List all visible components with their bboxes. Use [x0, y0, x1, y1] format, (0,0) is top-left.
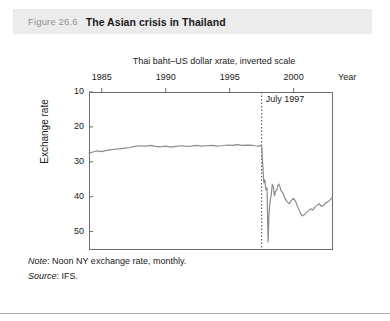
figure-header-content: Figure 26.6 The Asian crisis in Thailand — [28, 9, 226, 34]
note-label: Note — [28, 256, 47, 266]
figure-number: Figure 26.6 — [28, 16, 78, 27]
footnote-source: Source: IFS. — [28, 269, 358, 284]
figure-title: The Asian crisis in Thailand — [86, 16, 226, 28]
event-annotation-july-1997: July 1997 — [266, 94, 305, 104]
plot-canvas — [13, 34, 372, 256]
figure-panel: Figure 26.6 The Asian crisis in Thailand… — [13, 4, 372, 299]
chart-area: Thai baht–US dollar xrate, inverted scal… — [13, 34, 372, 256]
bottom-divider — [0, 313, 390, 314]
figure-page: Figure 26.6 The Asian crisis in Thailand… — [0, 0, 390, 321]
source-label: Source — [28, 271, 57, 281]
note-text: : Noon NY exchange rate, monthly. — [47, 256, 186, 266]
footnotes: Note: Noon NY exchange rate, monthly. So… — [28, 254, 358, 284]
source-text: : IFS. — [57, 271, 79, 281]
footnote-note: Note: Noon NY exchange rate, monthly. — [28, 254, 358, 269]
